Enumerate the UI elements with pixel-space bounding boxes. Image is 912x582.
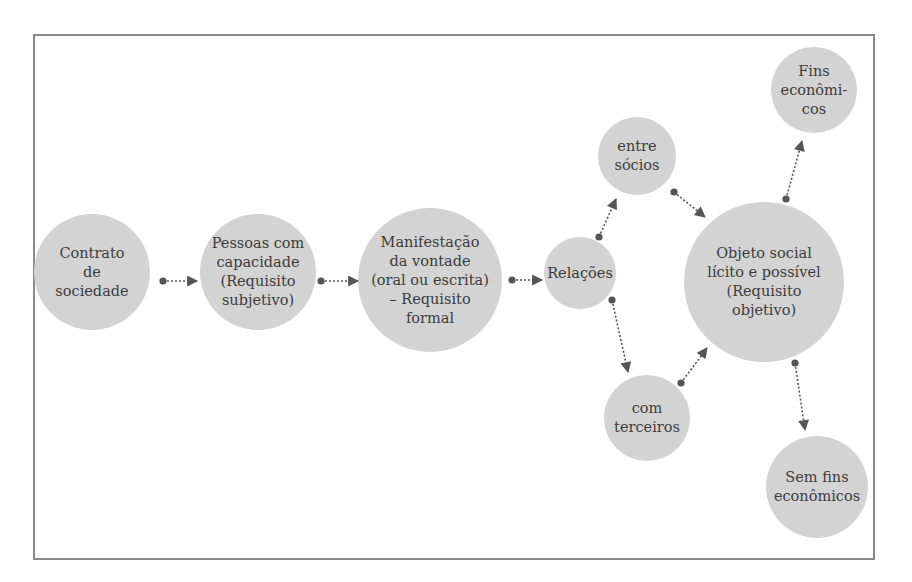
edge-objeto-social-to-fins-economicos bbox=[782, 141, 802, 203]
dotted-arrow-icon bbox=[786, 141, 802, 199]
node-label-contrato: Contrato de sociedade bbox=[37, 244, 147, 301]
edge-com-terceiros-to-objeto-social bbox=[677, 348, 707, 387]
dotted-arrow-icon bbox=[681, 348, 707, 383]
edge-pessoas-to-manifestacao bbox=[317, 277, 358, 284]
node-label-manifestacao: Manifestação da vontade (oral ou escrita… bbox=[361, 233, 499, 328]
dotted-arrow-icon bbox=[599, 199, 616, 237]
dotted-arrow-icon bbox=[674, 192, 705, 217]
node-label-com-terceiros: com terceiros bbox=[607, 399, 687, 437]
node-label-relacoes: Relações bbox=[547, 264, 613, 283]
node-label-entre-socios: entre sócios bbox=[601, 137, 673, 175]
edge-relacoes-to-entre-socios bbox=[595, 199, 616, 241]
edge-relacoes-to-com-terceiros bbox=[608, 296, 628, 372]
dotted-arrow-icon bbox=[612, 300, 628, 372]
node-label-fins-economicos: Fins econômi- cos bbox=[774, 62, 854, 119]
dotted-arrow-icon bbox=[795, 363, 805, 430]
edge-contrato-to-pessoas bbox=[159, 277, 197, 284]
node-label-sem-fins: Sem fins econômicos bbox=[769, 468, 865, 506]
edge-manifestacao-to-relacoes bbox=[508, 276, 542, 283]
node-label-objeto-social: Objeto social lícito e possível (Requisi… bbox=[687, 244, 841, 320]
edge-entre-socios-to-objeto-social bbox=[670, 188, 705, 217]
node-label-pessoas: Pessoas com capacidade (Requisito subjet… bbox=[203, 234, 313, 310]
edge-objeto-social-to-sem-fins bbox=[791, 359, 805, 430]
